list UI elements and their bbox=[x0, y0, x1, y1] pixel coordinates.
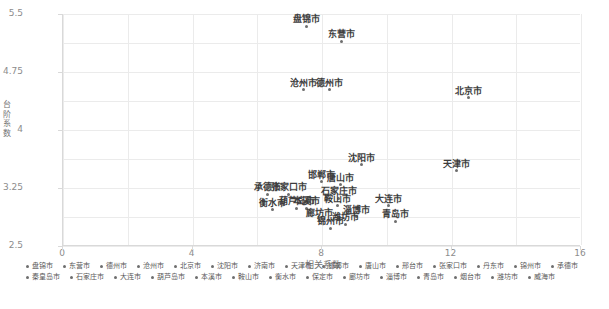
legend-item[interactable]: 张家口市 bbox=[433, 261, 467, 272]
legend-item[interactable]: 保定市 bbox=[306, 272, 333, 283]
legend-item[interactable]: 本溪市 bbox=[195, 272, 222, 283]
data-point[interactable] bbox=[344, 223, 347, 226]
y-axis-tick-label: 5.5 bbox=[0, 9, 23, 18]
legend-item-label: 德州市 bbox=[106, 261, 127, 272]
data-point-label: 盘锦市 bbox=[293, 14, 320, 24]
legend-item[interactable]: 唐山市 bbox=[359, 261, 386, 272]
legend-item[interactable]: 廊坊市 bbox=[343, 272, 370, 283]
legend-item-label: 唐山市 bbox=[365, 261, 386, 272]
legend-item[interactable]: 衡水市 bbox=[269, 272, 296, 283]
data-point[interactable] bbox=[467, 96, 470, 99]
legend-marker-icon bbox=[343, 276, 346, 279]
legend-item[interactable]: 秦皇岛市 bbox=[26, 272, 60, 283]
data-point-label: 北京市 bbox=[455, 86, 482, 96]
data-point[interactable] bbox=[320, 180, 323, 183]
legend-item-label: 济南市 bbox=[254, 261, 275, 272]
gridline-vertical bbox=[452, 14, 453, 245]
legend-item[interactable]: 烟台市 bbox=[454, 272, 481, 283]
legend-item[interactable]: 威海市 bbox=[528, 272, 555, 283]
legend-item[interactable]: 葫芦岛市 bbox=[151, 272, 185, 283]
legend-item[interactable]: 青岛市 bbox=[417, 272, 444, 283]
legend-item[interactable]: 邯郸市 bbox=[322, 261, 349, 272]
legend-item-label: 本溪市 bbox=[201, 272, 222, 283]
x-axis-tick-label: 0 bbox=[42, 249, 82, 258]
legend-marker-icon bbox=[454, 276, 457, 279]
legend-item-label: 盘锦市 bbox=[32, 261, 53, 272]
legend-item[interactable]: 淄博市 bbox=[380, 272, 407, 283]
legend-marker-icon bbox=[137, 265, 140, 268]
legend-item-label: 邢台市 bbox=[402, 261, 423, 272]
data-point[interactable] bbox=[266, 193, 269, 196]
data-point-label: 唐山市 bbox=[327, 173, 354, 183]
gridline-vertical-minor bbox=[257, 14, 258, 245]
y-axis-tick-label: 2.5 bbox=[0, 241, 23, 250]
data-point[interactable] bbox=[295, 207, 298, 210]
data-point[interactable] bbox=[340, 40, 343, 43]
legend-marker-icon bbox=[322, 265, 325, 268]
legend-marker-icon bbox=[380, 276, 383, 279]
legend-marker-icon bbox=[232, 276, 235, 279]
legend-marker-icon bbox=[433, 265, 436, 268]
legend-item[interactable]: 济南市 bbox=[248, 261, 275, 272]
legend-item[interactable]: 邢台市 bbox=[396, 261, 423, 272]
legend-marker-icon bbox=[114, 276, 117, 279]
legend-marker-icon bbox=[70, 276, 73, 279]
legend-item-label: 天津市 bbox=[291, 261, 312, 272]
data-point[interactable] bbox=[328, 88, 331, 91]
legend-item-label: 东营市 bbox=[69, 261, 90, 272]
data-point-label: 沧州市 bbox=[290, 78, 317, 88]
legend-item-label: 北京市 bbox=[180, 261, 201, 272]
legend-marker-icon bbox=[151, 276, 154, 279]
legend-item-label: 承德市 bbox=[557, 261, 578, 272]
gridline-vertical-minor bbox=[516, 14, 517, 245]
legend-item[interactable]: 沈阳市 bbox=[211, 261, 238, 272]
legend-item[interactable]: 鞍山市 bbox=[232, 272, 259, 283]
legend-marker-icon bbox=[417, 276, 420, 279]
legend-marker-icon bbox=[396, 265, 399, 268]
y-axis-tick-label: 4 bbox=[0, 125, 23, 134]
legend-item[interactable]: 承德市 bbox=[551, 261, 578, 272]
gridline-vertical bbox=[63, 14, 64, 245]
legend-item-label: 潍坊市 bbox=[497, 272, 518, 283]
legend-item[interactable]: 丹东市 bbox=[477, 261, 504, 272]
data-point[interactable] bbox=[329, 227, 332, 230]
legend-marker-icon bbox=[269, 276, 272, 279]
legend-item[interactable]: 锦州市 bbox=[514, 261, 541, 272]
data-point[interactable] bbox=[394, 220, 397, 223]
y-axis-tick-label: 4.75 bbox=[0, 67, 23, 76]
legend-item-label: 秦皇岛市 bbox=[32, 272, 60, 283]
legend-item[interactable]: 盘锦市 bbox=[26, 261, 53, 272]
legend-item[interactable]: 沧州市 bbox=[137, 261, 164, 272]
legend-marker-icon bbox=[100, 265, 103, 268]
legend-item-label: 淄博市 bbox=[386, 272, 407, 283]
legend-item-label: 鞍山市 bbox=[238, 272, 259, 283]
legend-item-label: 廊坊市 bbox=[349, 272, 370, 283]
legend-item-label: 张家口市 bbox=[439, 261, 467, 272]
legend-item[interactable]: 潍坊市 bbox=[491, 272, 518, 283]
legend-marker-icon bbox=[26, 265, 29, 268]
legend-marker-icon bbox=[26, 276, 29, 279]
legend-item[interactable]: 东营市 bbox=[63, 261, 90, 272]
legend-item-label: 葫芦岛市 bbox=[157, 272, 185, 283]
gridline-vertical-minor bbox=[128, 14, 129, 245]
legend-item-label: 青岛市 bbox=[423, 272, 444, 283]
legend-marker-icon bbox=[477, 265, 480, 268]
data-point-label: 东营市 bbox=[328, 29, 355, 39]
data-point[interactable] bbox=[305, 25, 308, 28]
gridline-vertical bbox=[193, 14, 194, 245]
x-axis-tick-mark bbox=[192, 246, 193, 250]
legend-item[interactable]: 北京市 bbox=[174, 261, 201, 272]
legend-item[interactable]: 大连市 bbox=[114, 272, 141, 283]
legend-item[interactable]: 天津市 bbox=[285, 261, 312, 272]
legend-item-label: 衡水市 bbox=[275, 272, 296, 283]
legend-item[interactable]: 石家庄市 bbox=[70, 272, 104, 283]
chart-legend: 盘锦市东营市德州市沧州市北京市沈阳市济南市天津市邯郸市唐山市邢台市张家口市丹东市… bbox=[26, 261, 602, 283]
legend-marker-icon bbox=[528, 276, 531, 279]
data-point-label: 天津市 bbox=[443, 159, 470, 169]
legend-marker-icon bbox=[63, 265, 66, 268]
data-point-label: 锦州市 bbox=[317, 216, 344, 226]
legend-marker-icon bbox=[211, 265, 214, 268]
legend-item-label: 石家庄市 bbox=[76, 272, 104, 283]
legend-item[interactable]: 德州市 bbox=[100, 261, 127, 272]
x-axis-tick-label: 4 bbox=[172, 249, 212, 258]
